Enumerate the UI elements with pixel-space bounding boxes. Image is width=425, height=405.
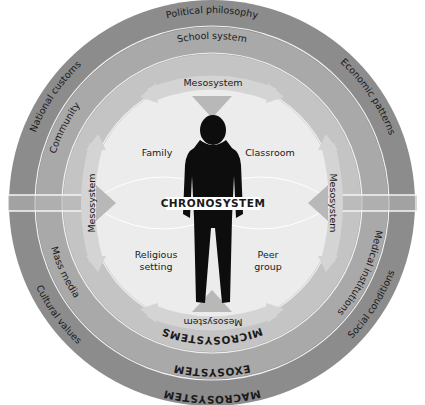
- mesosystem-label-top: Mesosystem: [183, 77, 242, 88]
- microsystem-peer-group-line2: group: [254, 261, 282, 272]
- microsystem-religious-setting-line2: setting: [140, 261, 173, 272]
- ecological-systems-diagram: CHRONOSYSTEM Family Classroom Religious …: [0, 0, 425, 405]
- mesosystem-label-left: Mesosystem: [86, 173, 97, 232]
- mesosystem-label-bottom: Mesosystem: [183, 317, 242, 328]
- microsystem-classroom: Classroom: [245, 147, 295, 158]
- chronosystem-label: CHRONOSYSTEM: [161, 197, 266, 209]
- microsystem-family: Family: [142, 147, 173, 158]
- mesosystem-label-right: Mesosystem: [328, 173, 339, 232]
- microsystem-religious-setting-line1: Religious: [135, 249, 178, 260]
- microsystem-peer-group-line1: Peer: [258, 249, 279, 260]
